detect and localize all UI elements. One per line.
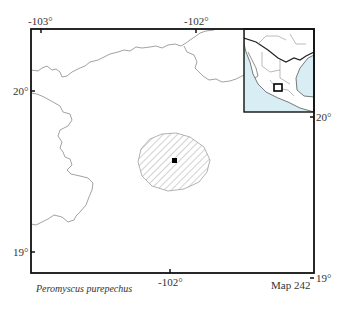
tick-label-left-20: 20° [13, 86, 28, 97]
tick-label-top-102: -102° [184, 16, 209, 27]
tick-label-top-103: -103° [28, 16, 53, 27]
tick-label-right-20: 20° [316, 112, 331, 123]
tick-label-bottom-102: -102° [158, 277, 183, 288]
tick-label-right-19: 19° [316, 273, 331, 284]
tick-label-left-19: 19° [13, 247, 28, 258]
inset-map [244, 29, 314, 112]
study-area-box [274, 84, 282, 91]
locality-marker [172, 158, 177, 163]
map-number: Map 242 [271, 279, 310, 291]
state-boundaries [31, 30, 244, 225]
species-name: Peromyscus purepechus [36, 283, 132, 294]
